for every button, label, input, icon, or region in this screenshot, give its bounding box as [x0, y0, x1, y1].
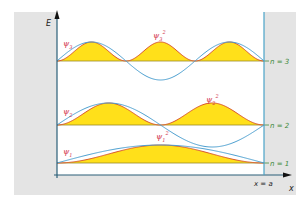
level-label-n3: n = 3 — [270, 58, 289, 66]
psi1-label: ψ1 — [63, 148, 72, 156]
wall-position-label: x = a — [254, 180, 273, 188]
level-label-n2: n = 2 — [270, 122, 289, 130]
particle-in-box-diagram: E x x = a n = 3 n = 2 n = 1 ψ3 ψ32 ψ2 ψ2… — [0, 0, 308, 203]
psi2-label: ψ2 — [63, 108, 72, 116]
wavefunction-curves — [57, 42, 269, 163]
left-wall-region — [14, 12, 57, 195]
psi3-squared-label: ψ32 — [153, 32, 166, 40]
energy-axis-label: E — [46, 20, 51, 28]
position-axis-label: x — [289, 185, 294, 193]
probability-density-fill-n2 — [57, 103, 264, 125]
probability-density-fill-n1 — [57, 145, 264, 163]
psi3-label: ψ3 — [63, 40, 72, 48]
level-label-n1: n = 1 — [270, 160, 289, 168]
psi2-squared-label: ψ22 — [206, 96, 219, 104]
psi1-squared-label: ψ12 — [156, 133, 169, 141]
probability-density-fill-n3 — [57, 42, 264, 61]
